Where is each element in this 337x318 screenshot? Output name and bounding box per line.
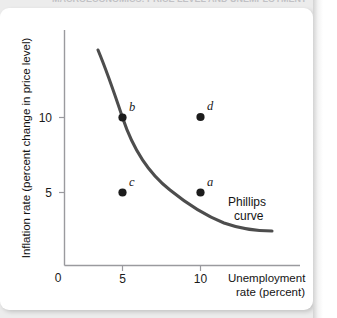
y-tick-label-5: 5 (45, 186, 52, 200)
y-axis-ticks (59, 118, 65, 193)
x-tick-label-5: 5 (119, 272, 126, 286)
point-a-dot (196, 188, 204, 196)
point-b-label: b (129, 100, 135, 114)
data-point-c: c (118, 175, 135, 197)
y-tick-label-10: 10 (39, 111, 53, 125)
x-tick-label-10: 10 (194, 272, 208, 286)
phillips-curve-label-line2: curve (234, 209, 264, 223)
point-b-dot (118, 113, 126, 121)
x-axis-title-line2: rate (percent) (236, 286, 305, 298)
data-point-d: d (196, 99, 214, 121)
phillips-curve-label-line1: Phillips (228, 195, 266, 209)
y-axis-title: Inflation rate (percent change in price … (20, 38, 32, 259)
point-a-label: a (207, 175, 213, 189)
origin-tick-label-0: 0 (55, 271, 62, 285)
phillips-curve-label: Phillips curve (228, 195, 266, 223)
point-d-label: d (207, 99, 214, 113)
x-axis-ticks (123, 266, 201, 272)
point-c-label: c (129, 175, 135, 189)
phillips-curve-chart: 10 5 0 5 10 b d c a Phillips curve Infla… (0, 0, 337, 318)
x-axis-title-line1: Unemployment (228, 272, 306, 284)
point-d-dot (196, 113, 204, 121)
point-c-dot (118, 188, 126, 196)
data-point-a: a (196, 175, 213, 197)
